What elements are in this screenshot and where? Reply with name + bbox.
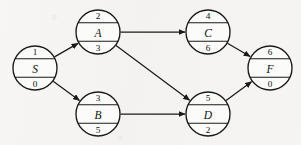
node-c[interactable]: 4C6 xyxy=(186,10,230,54)
node-f[interactable]: 6F0 xyxy=(248,46,292,90)
node-s-label: S xyxy=(32,63,38,75)
node-a-label: A xyxy=(93,27,102,39)
node-s-bottom-value: 0 xyxy=(33,79,38,89)
node-c-label: C xyxy=(204,27,212,39)
edge-s-to-b xyxy=(53,81,79,100)
node-d-label: D xyxy=(203,109,213,121)
node-d-top-value: 5 xyxy=(206,93,211,103)
node-s[interactable]: 1S0 xyxy=(13,46,57,90)
node-f-bottom-value: 0 xyxy=(268,79,273,89)
graph-diagram: 1S02A33B54C65D26F0 xyxy=(0,0,301,145)
graph-canvas: 1S02A33B54C65D26F0 xyxy=(0,0,301,145)
node-b-label: B xyxy=(94,109,101,121)
node-d-bottom-value: 2 xyxy=(206,125,211,135)
node-f-label: F xyxy=(265,63,274,75)
node-b-bottom-value: 5 xyxy=(96,125,101,135)
edge-a-to-d xyxy=(116,45,190,100)
node-b[interactable]: 3B5 xyxy=(76,92,120,136)
node-f-top-value: 6 xyxy=(268,47,273,57)
node-a[interactable]: 2A3 xyxy=(76,10,120,54)
edge-s-to-a xyxy=(55,43,78,56)
node-a-bottom-value: 3 xyxy=(96,43,101,53)
edge-c-to-f xyxy=(227,43,250,56)
edge-d-to-f xyxy=(226,82,251,101)
node-b-top-value: 3 xyxy=(96,93,101,103)
node-a-top-value: 2 xyxy=(96,11,101,21)
node-s-top-value: 1 xyxy=(33,47,38,57)
node-c-top-value: 4 xyxy=(206,11,211,21)
node-d[interactable]: 5D2 xyxy=(186,92,230,136)
node-c-bottom-value: 6 xyxy=(206,43,211,53)
